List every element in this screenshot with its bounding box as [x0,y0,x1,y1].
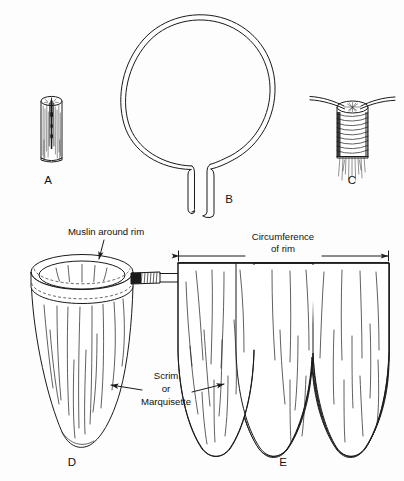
c-coil-shadow-right [365,112,368,157]
e-interior-mask [180,265,387,350]
scrim-callout-line-3: Marquisette [141,396,191,407]
c-coil-shadow-left [337,112,341,157]
scrim-callout-line-1: Scrim [154,370,179,381]
panel-label-c: C [348,174,356,186]
circumference-label-line-1: Circumference [252,231,314,242]
slot-shadow-marks [50,112,53,139]
panel-label-d: D [68,456,76,468]
circumference-label-line-2: of rim [271,243,295,254]
d-binding-dark [131,273,141,284]
figure-illustration-canvas: A B [0,0,404,481]
panel-label-a: A [44,174,52,186]
scrim-callout-line-2: or [162,383,171,394]
panel-label-e: E [279,456,287,468]
muslin-callout-text: Muslin around rim [68,226,144,237]
panel-label-b: B [225,193,233,205]
sweep-net-construction-figure: A B [0,0,404,481]
panel-e-net-bag-pattern [178,263,389,458]
panel-a-split-handle-end [41,96,62,162]
